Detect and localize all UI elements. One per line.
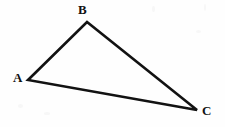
triangle-figure: A B C bbox=[0, 0, 225, 127]
vertex-label-b: B bbox=[78, 3, 87, 16]
vertex-label-c: C bbox=[202, 104, 211, 117]
triangle-canvas bbox=[0, 0, 225, 127]
triangle-outline bbox=[28, 22, 197, 110]
vertex-label-a: A bbox=[13, 71, 22, 84]
